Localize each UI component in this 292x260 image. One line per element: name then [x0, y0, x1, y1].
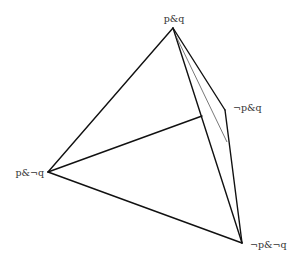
edge-right-bottom: [225, 110, 242, 243]
edge-thin-inner: [176, 36, 227, 142]
edge-top-bottom: [173, 28, 242, 243]
vertex-label-right: ¬p&q: [233, 102, 262, 113]
edge-top-right: [173, 28, 225, 110]
vertex-label-bottom: ¬p&¬q: [250, 239, 287, 250]
edge-left-bottom: [48, 172, 242, 243]
edge-left-inner: [48, 116, 202, 172]
vertex-label-left: p&¬q: [15, 167, 44, 178]
edge-top-left: [48, 28, 173, 172]
tetrahedron-diagram: p&q ¬p&q p&¬q ¬p&¬q: [0, 0, 292, 260]
vertex-label-top: p&q: [164, 13, 185, 24]
